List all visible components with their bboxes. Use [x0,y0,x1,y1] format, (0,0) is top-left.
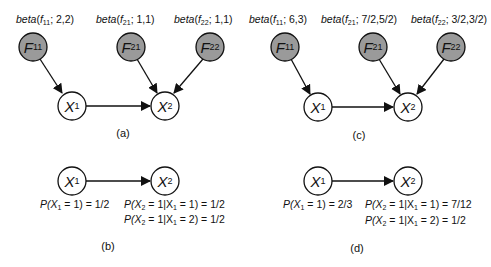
node-letter: X [64,98,74,115]
node-letter: F [276,39,285,56]
node-sub: 2 [168,101,173,111]
node-label-X2: X2 [394,167,422,195]
caption-c: (c) [353,129,366,141]
prior-params: ; 6,3) [283,13,307,25]
prob-mid: = 1|X [386,214,414,226]
prior-sub: 22 [201,19,209,26]
node-letter: F [441,39,450,56]
node-letter: X [310,99,320,116]
caption-a: (a) [116,127,129,139]
prob-x1: P(X1 = 1) = 2/3 [283,199,352,211]
node-label-F11: F11 [271,33,299,61]
node-sub: 1 [321,102,326,112]
prior-fn: beta [174,13,194,25]
prob-lhs: P(X [124,213,142,225]
prior-params: ; 2,2) [50,13,74,25]
prior-sub: 22 [438,19,446,26]
prob-rhs: = 1) = 1/2 [61,198,109,210]
prior-label-f11: beta(f11; 6,3) [249,14,307,26]
prob-x1: P(X1 = 1) = 1/2 [40,199,109,211]
prior-params: ; 1,1) [209,13,233,25]
node-sub: 1 [321,176,326,186]
node-letter: X [157,173,167,190]
node-label-F22: F22 [196,33,224,61]
node-letter: X [400,99,410,116]
prior-sub: 21 [348,19,356,26]
node-sub: 11 [33,42,42,52]
node-label-F21: F21 [359,33,387,61]
node-sub: 22 [451,42,461,52]
node-letter: X [400,173,410,190]
node-letter: X [64,173,74,190]
prob-x2-given-x1-1: P(X2 = 1|X1 = 1) = 7/12 [365,199,472,211]
node-letter: F [121,39,130,56]
prior-fn: beta [96,13,116,25]
edge-F22-X2 [174,59,203,93]
node-letter: F [363,39,372,56]
prob-rhs: = 2) = 1/2 [177,213,225,225]
node-label-F21: F21 [117,33,145,61]
prior-label-f21: beta(f21; 1,1) [96,14,155,26]
prior-fn: beta [411,13,431,25]
prob-rhs: = 2) = 1/2 [418,214,466,226]
edge-F21-X2 [379,59,400,94]
prob-x2-given-x1-1: P(X2 = 1|X1 = 1) = 1/2 [124,199,225,211]
node-sub: 21 [373,42,383,52]
prior-params: ; 1,1) [131,13,155,25]
node-label-X1: X1 [304,167,332,195]
node-label-X2: X2 [151,92,179,120]
node-label-X2: X2 [394,93,422,121]
prob-mid: = 1|X [386,198,414,210]
node-label-X1: X1 [304,93,332,121]
edge-F22-X2 [417,59,444,94]
prior-label-f21: beta(f21; 7/2,5/2) [321,14,397,26]
node-sub: 2 [411,176,416,186]
edge-F21-X2 [137,59,157,93]
node-sub: 22 [210,42,220,52]
prob-lhs: P(X [365,214,383,226]
node-label-F22: F22 [437,33,465,61]
node-label-X2: X2 [151,167,179,195]
prior-fn: beta [16,13,36,25]
node-sub: 21 [131,42,141,52]
caption-d: (d) [350,242,363,254]
node-label-X1: X1 [58,92,86,120]
edge-F11-X1 [291,59,310,94]
prior-fn: beta [249,13,269,25]
prob-rhs: = 1) = 7/12 [418,198,472,210]
prior-sub: 21 [123,19,131,26]
caption-b: (b) [101,240,114,252]
node-sub: 2 [411,102,416,112]
prior-label-f22: beta(f22; 1,1) [174,14,233,26]
prior-label-f22: beta(f22; 3/2,3/2) [411,14,487,26]
prob-rhs: = 1) = 2/3 [304,198,352,210]
node-label-X1: X1 [58,167,86,195]
prob-x2-given-x1-2: P(X2 = 1|X1 = 2) = 1/2 [365,215,466,227]
prior-params: ; 3/2,3/2) [446,13,487,25]
prior-fn: beta [321,13,341,25]
node-letter: X [310,173,320,190]
prior-params: ; 7/2,5/2) [356,13,397,25]
node-label-F11: F11 [19,33,47,61]
node-letter: F [24,39,33,56]
prob-lhs: P(X [283,198,301,210]
node-sub: 1 [75,176,80,186]
node-letter: F [200,39,209,56]
node-sub: 11 [285,42,294,52]
prob-rhs: = 1) = 1/2 [177,198,225,210]
node-sub: 1 [75,101,80,111]
edge-F11-X1 [40,59,62,93]
node-letter: X [157,98,167,115]
prob-lhs: P(X [124,198,142,210]
node-sub: 2 [168,176,173,186]
prob-x2-given-x1-2: P(X2 = 1|X1 = 2) = 1/2 [124,214,225,226]
prior-label-f11: beta(f11; 2,2) [16,14,74,26]
prob-lhs: P(X [365,198,383,210]
prob-lhs: P(X [40,198,58,210]
prob-mid: = 1|X [145,213,173,225]
prob-mid: = 1|X [145,198,173,210]
